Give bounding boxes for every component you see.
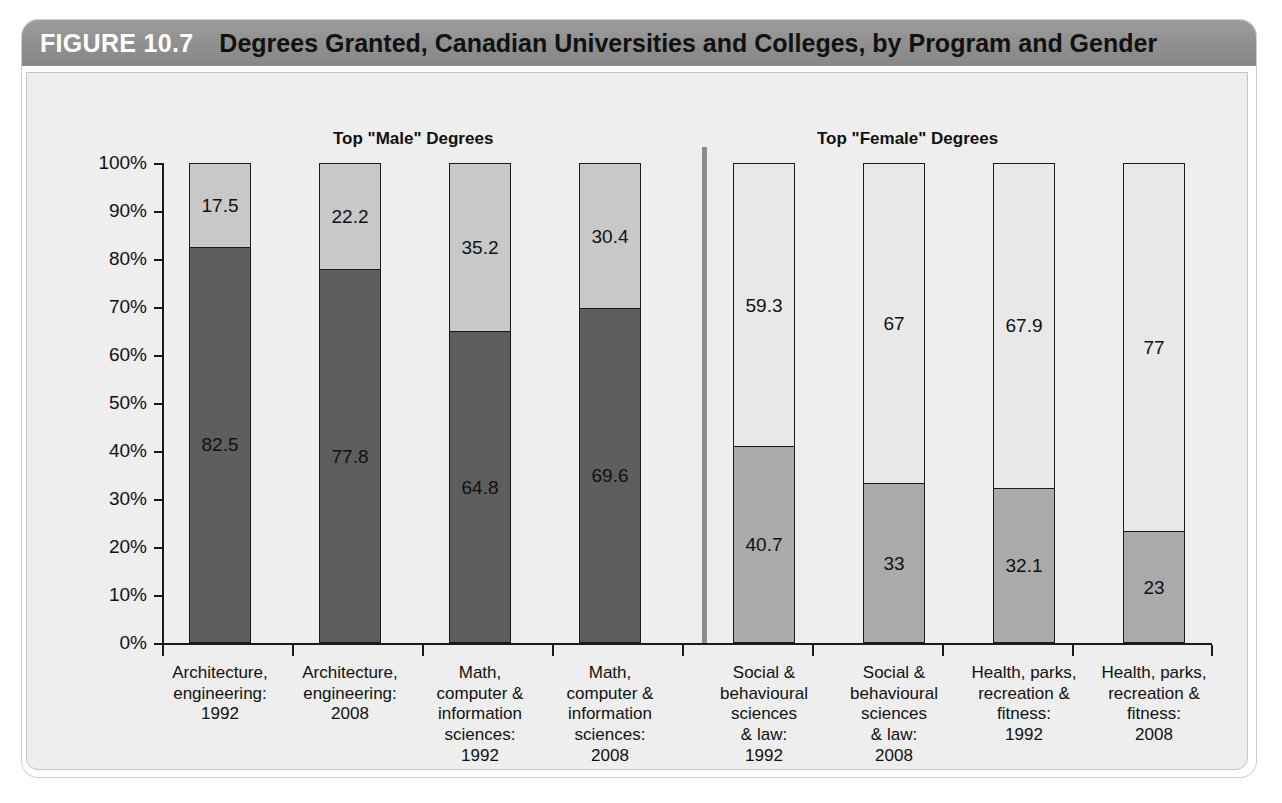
- bar-segment-top[interactable]: 30.4: [580, 164, 640, 309]
- figure-title: Degrees Granted, Canadian Universities a…: [219, 29, 1157, 58]
- category-label-5: Social &behaviouralsciences& law:1992: [700, 663, 828, 767]
- category-label-line: Math,: [416, 663, 544, 684]
- category-label-7: Health, parks,recreation &fitness:1992: [960, 663, 1088, 746]
- category-label-line: sciences: [700, 704, 828, 725]
- category-label-line: engineering:: [286, 684, 414, 705]
- bar-value-bottom: 32.1: [1006, 556, 1043, 575]
- bar-segment-bottom[interactable]: 32.1: [994, 489, 1054, 642]
- y-axis-label: 30%: [52, 488, 147, 510]
- category-label-line: recreation &: [1090, 684, 1218, 705]
- bar-value-top: 35.2: [462, 238, 499, 257]
- bar-segment-top[interactable]: 35.2: [450, 164, 510, 332]
- x-axis-tick: [942, 645, 944, 656]
- x-axis-tick: [1072, 645, 1074, 656]
- category-label-line: 2008: [546, 746, 674, 767]
- figure-page: FIGURE 10.7 Degrees Granted, Canadian Un…: [0, 0, 1282, 803]
- category-label-line: Social &: [700, 663, 828, 684]
- x-axis-tick: [292, 645, 294, 656]
- y-axis-tick: [154, 499, 163, 501]
- category-label-line: 2008: [1090, 725, 1218, 746]
- group-title-female: Top "Female" Degrees: [817, 129, 998, 149]
- bar-segment-bottom[interactable]: 33: [864, 484, 924, 642]
- y-axis-label: 10%: [52, 584, 147, 606]
- y-axis-tick: [154, 355, 163, 357]
- y-axis-label: 60%: [52, 344, 147, 366]
- category-label-line: sciences: [830, 704, 958, 725]
- figure-card: FIGURE 10.7 Degrees Granted, Canadian Un…: [22, 20, 1256, 777]
- category-label-1: Architecture,engineering:1992: [156, 663, 284, 725]
- bar-value-bottom: 23: [1143, 578, 1164, 597]
- y-axis-tick: [154, 259, 163, 261]
- category-label-line: sciences:: [546, 725, 674, 746]
- bar-segment-bottom[interactable]: 69.6: [580, 309, 640, 642]
- bar-1[interactable]: 17.582.5: [189, 163, 251, 643]
- category-label-line: 1992: [416, 746, 544, 767]
- category-label-line: 2008: [830, 746, 958, 767]
- category-label-4: Math,computer &informationsciences:2008: [546, 663, 674, 767]
- category-label-line: Health, parks,: [1090, 663, 1218, 684]
- y-axis-tick: [154, 451, 163, 453]
- x-axis-tick: [812, 645, 814, 656]
- bar-value-top: 22.2: [332, 207, 369, 226]
- bar-segment-bottom[interactable]: 23: [1124, 532, 1184, 642]
- category-label-line: Math,: [546, 663, 674, 684]
- bar-2[interactable]: 22.277.8: [319, 163, 381, 643]
- y-axis-label: 50%: [52, 392, 147, 414]
- x-axis-tick: [422, 645, 424, 656]
- category-label-line: computer &: [416, 684, 544, 705]
- y-axis-tick: [154, 595, 163, 597]
- bar-segment-bottom[interactable]: 77.8: [320, 270, 380, 642]
- bar-segment-bottom[interactable]: 82.5: [190, 248, 250, 642]
- category-label-line: 2008: [286, 704, 414, 725]
- bar-segment-top[interactable]: 59.3: [734, 164, 794, 447]
- bar-segment-top[interactable]: 67.9: [994, 164, 1054, 489]
- bar-5[interactable]: 59.340.7: [733, 163, 795, 643]
- y-axis-label: 100%: [52, 152, 147, 174]
- category-label-line: sciences:: [416, 725, 544, 746]
- bar-segment-top[interactable]: 67: [864, 164, 924, 484]
- bar-segment-top[interactable]: 17.5: [190, 164, 250, 248]
- category-label-line: & law:: [700, 725, 828, 746]
- category-label-2: Architecture,engineering:2008: [286, 663, 414, 725]
- bar-value-bottom: 77.8: [332, 447, 369, 466]
- category-label-line: 1992: [960, 725, 1088, 746]
- category-label-line: Health, parks,: [960, 663, 1088, 684]
- bar-6[interactable]: 6733: [863, 163, 925, 643]
- bar-8[interactable]: 7723: [1123, 163, 1185, 643]
- bar-value-top: 59.3: [746, 296, 783, 315]
- bar-7[interactable]: 67.932.1: [993, 163, 1055, 643]
- category-label-line: & law:: [830, 725, 958, 746]
- category-label-3: Math,computer &informationsciences:1992: [416, 663, 544, 767]
- figure-number: FIGURE 10.7: [40, 29, 193, 58]
- y-axis-tick: [154, 163, 163, 165]
- y-axis-tick: [154, 307, 163, 309]
- category-label-line: information: [546, 704, 674, 725]
- bar-segment-top[interactable]: 77: [1124, 164, 1184, 532]
- category-label-line: Architecture,: [286, 663, 414, 684]
- y-axis-tick: [154, 403, 163, 405]
- y-axis-tick: [154, 547, 163, 549]
- category-label-line: 1992: [700, 746, 828, 767]
- bar-segment-top[interactable]: 22.2: [320, 164, 380, 270]
- category-label-line: computer &: [546, 684, 674, 705]
- bar-value-bottom: 82.5: [202, 435, 239, 454]
- bar-value-top: 77: [1143, 338, 1164, 357]
- category-label-line: Social &: [830, 663, 958, 684]
- bar-segment-bottom[interactable]: 40.7: [734, 447, 794, 642]
- bar-4[interactable]: 30.469.6: [579, 163, 641, 643]
- y-axis-label: 40%: [52, 440, 147, 462]
- y-axis-label: 20%: [52, 536, 147, 558]
- group-divider: [702, 147, 707, 644]
- bar-3[interactable]: 35.264.8: [449, 163, 511, 643]
- plot-panel: Top "Male" Degrees Top "Female" Degrees …: [26, 72, 1248, 770]
- bar-segment-bottom[interactable]: 64.8: [450, 332, 510, 642]
- category-label-line: information: [416, 704, 544, 725]
- x-axis-line: [162, 643, 1212, 645]
- category-label-line: recreation &: [960, 684, 1088, 705]
- category-label-line: behavioural: [700, 684, 828, 705]
- x-axis-tick: [682, 645, 684, 656]
- y-axis-label: 70%: [52, 296, 147, 318]
- category-label-line: fitness:: [1090, 704, 1218, 725]
- x-axis-tick: [552, 645, 554, 656]
- category-label-line: fitness:: [960, 704, 1088, 725]
